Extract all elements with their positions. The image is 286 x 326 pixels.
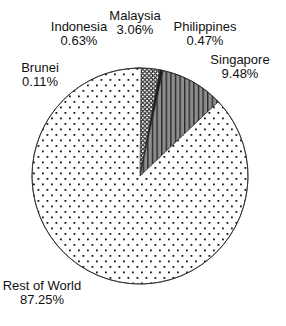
slice-percent: 0.47% <box>167 34 243 48</box>
slice-percent: 0.11% <box>6 75 74 89</box>
slice-percent: 87.25% <box>0 293 84 307</box>
slice-name: Singapore <box>203 53 277 67</box>
slice-name: Malaysia <box>98 9 172 23</box>
slice-name: Philippines <box>167 20 243 34</box>
slice-percent: 9.48% <box>203 67 277 81</box>
slice-name: Rest of World <box>0 279 84 293</box>
slice-percent: 3.06% <box>98 23 172 37</box>
label-brunei: Brunei 0.11% <box>6 61 74 89</box>
label-philippines: Philippines 0.47% <box>167 20 243 48</box>
pie-chart-figure: Brunei 0.11% Indonesia 0.63% Malaysia 3.… <box>0 0 286 326</box>
label-rest-of-world: Rest of World 87.25% <box>0 279 84 307</box>
label-malaysia: Malaysia 3.06% <box>98 9 172 37</box>
slice-name: Brunei <box>6 61 74 75</box>
label-singapore: Singapore 9.48% <box>203 53 277 81</box>
pie-slices-group <box>32 68 248 284</box>
